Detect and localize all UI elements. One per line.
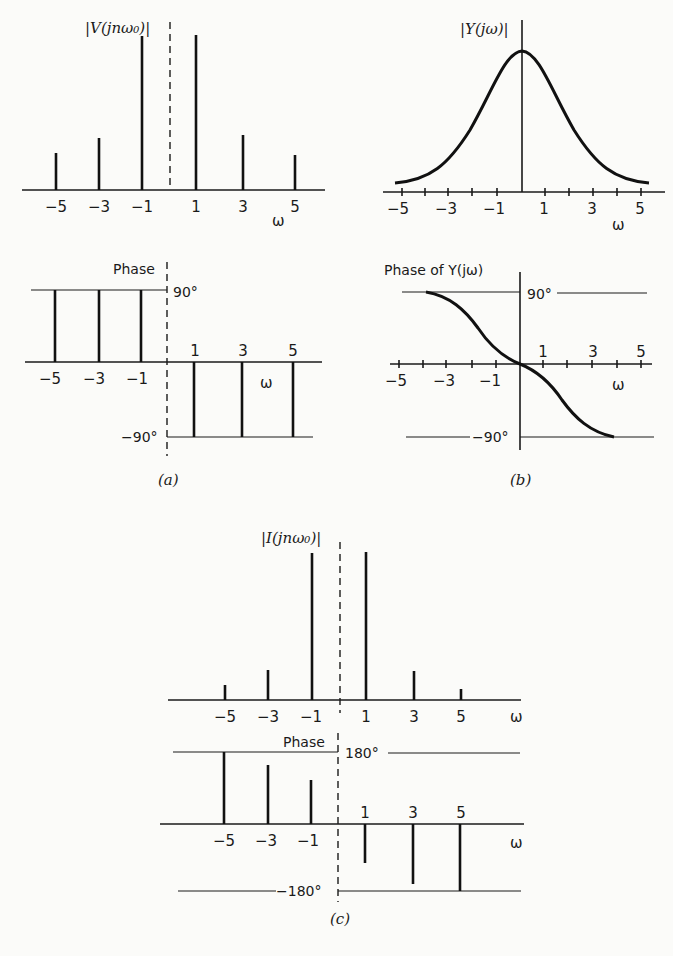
figure: |V(jnω₀)| −5 −3 −1 1 3 5 ω Phase 90° −90… [0, 0, 673, 956]
omega-label: ω [260, 374, 273, 392]
svg-text:−3: −3 [88, 198, 110, 216]
svg-text:1: 1 [360, 804, 370, 822]
svg-text:−1: −1 [479, 372, 501, 390]
svg-text:−5: −5 [213, 832, 235, 850]
omega-label: ω [510, 708, 523, 726]
svg-text:−3: −3 [433, 372, 455, 390]
tick-labels: −5 −3 −1 1 3 5 [385, 343, 646, 390]
panel-a-magnitude: |V(jnω₀)| −5 −3 −1 1 3 5 ω [22, 19, 325, 230]
svg-text:3: 3 [408, 804, 418, 822]
svg-text:5: 5 [456, 708, 466, 726]
svg-text:−3: −3 [435, 200, 457, 218]
svg-text:−5: −5 [385, 372, 407, 390]
svg-text:5: 5 [636, 343, 646, 361]
svg-text:5: 5 [290, 198, 300, 216]
magnitude-label: |V(jnω₀)| [85, 19, 150, 37]
svg-text:−3: −3 [257, 708, 279, 726]
phase-bottom-label: −90° [472, 429, 509, 445]
svg-text:1: 1 [539, 200, 549, 218]
phase-top-label: 90° [173, 284, 198, 300]
phase-bottom-label: −90° [121, 429, 158, 445]
omega-label: ω [612, 376, 625, 394]
svg-text:5: 5 [456, 804, 466, 822]
magnitude-label: |I(jnω₀)| [261, 529, 321, 547]
svg-text:5: 5 [635, 200, 645, 218]
panel-b-phase: Phase of Y(jω) 90° −90° −5 −3 −1 1 3 5 ω… [384, 262, 654, 489]
panel-a-phase: Phase 90° −90° −5 −3 −1 1 3 5 ω (a) [25, 261, 322, 489]
svg-text:−3: −3 [83, 370, 105, 388]
phase-label-prefix: Phase of Y(jω) [384, 262, 483, 278]
svg-text:−1: −1 [126, 370, 148, 388]
phase-label: Phase [283, 734, 325, 750]
caption-c: (c) [330, 910, 350, 928]
svg-text:−5: −5 [387, 200, 409, 218]
panel-b-magnitude: |Y(jω)| −5 −3 −1 1 3 5 ω [383, 20, 665, 234]
svg-text:3: 3 [587, 200, 597, 218]
phase-bottom-label: −180° [276, 883, 321, 899]
svg-text:−1: −1 [131, 198, 153, 216]
tick-labels: −5 −3 −1 1 3 5 [213, 804, 466, 850]
tick-labels: −5 −3 −1 1 3 5 [45, 198, 300, 216]
svg-text:−5: −5 [214, 708, 236, 726]
panel-c-magnitude: |I(jnω₀)| −5 −3 −1 1 3 5 ω [168, 529, 523, 726]
svg-text:1: 1 [190, 342, 200, 360]
caption-a: (a) [158, 471, 179, 489]
svg-text:−5: −5 [45, 198, 67, 216]
tick-labels: −5 −3 −1 1 3 5 [387, 200, 645, 218]
svg-text:3: 3 [238, 198, 248, 216]
svg-text:−3: −3 [255, 832, 277, 850]
svg-text:1: 1 [538, 343, 548, 361]
magnitude-label: |Y(jω)| [460, 20, 509, 38]
omega-label: ω [272, 212, 285, 230]
omega-label: ω [510, 834, 523, 852]
svg-text:1: 1 [361, 708, 371, 726]
svg-text:3: 3 [588, 343, 598, 361]
svg-text:5: 5 [288, 342, 298, 360]
phase-top-label: 90° [527, 286, 552, 302]
svg-text:−1: −1 [300, 708, 322, 726]
phase-label: Phase [113, 261, 155, 277]
svg-text:−1: −1 [483, 200, 505, 218]
svg-text:1: 1 [191, 198, 201, 216]
svg-text:−1: −1 [297, 832, 319, 850]
svg-text:3: 3 [409, 708, 419, 726]
omega-label: ω [612, 216, 625, 234]
tick-labels: −5 −3 −1 1 3 5 [39, 342, 298, 388]
panel-c-phase: Phase 180° −180° −5 −3 −1 1 3 5 ω (c) [160, 733, 524, 928]
svg-text:−5: −5 [39, 370, 61, 388]
caption-b: (b) [510, 471, 531, 489]
phase-top-label: 180° [345, 745, 379, 761]
svg-text:3: 3 [238, 342, 248, 360]
